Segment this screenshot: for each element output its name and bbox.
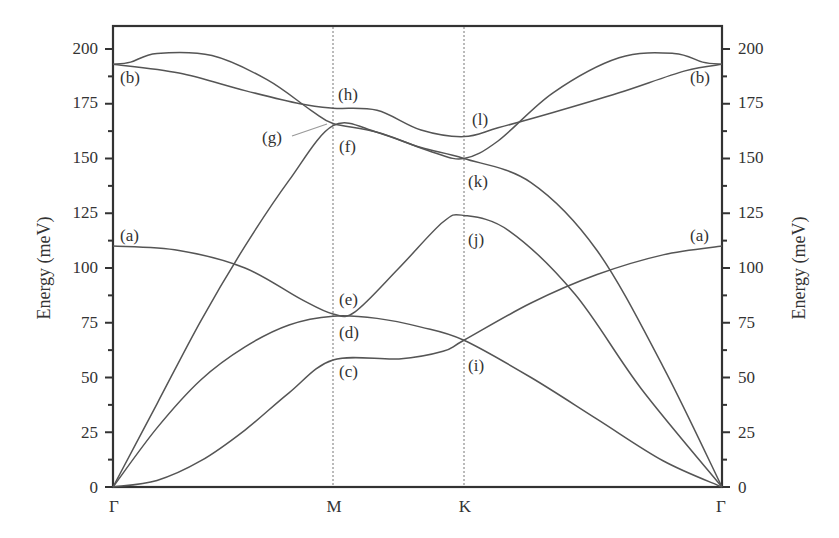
x-label-gamma-right: Γ	[716, 497, 726, 516]
annotation-g: (g)	[262, 128, 282, 147]
tick-label-75: 75	[81, 313, 98, 332]
annotation-l: (l)	[472, 110, 488, 129]
annotation-a-left: (a)	[120, 226, 139, 245]
branch-ta	[113, 316, 722, 487]
branch-zo	[113, 215, 722, 487]
branch-lo	[113, 52, 722, 159]
tick-label-50-right: 50	[738, 368, 755, 387]
right-y-tick-labels: 0 25 50 75 100 125 150 175 200	[738, 39, 764, 497]
tick-label-125-right: 125	[738, 203, 764, 222]
x-label-k: K	[459, 497, 472, 516]
tick-label-200: 200	[73, 39, 99, 58]
annotation-d: (d)	[339, 323, 359, 342]
annotation-f: (f)	[339, 137, 356, 156]
tick-label-100: 100	[73, 258, 99, 277]
branch-to	[113, 64, 722, 136]
plot-frame	[113, 26, 722, 487]
annotation-b-right: (b)	[690, 68, 710, 87]
annotation-k: (k)	[468, 172, 488, 191]
x-label-gamma-left: Γ	[109, 497, 119, 516]
annotation-e: (e)	[339, 290, 358, 309]
tick-label-0: 0	[90, 478, 99, 497]
tick-label-25: 25	[81, 423, 98, 442]
dispersion-curves	[113, 52, 722, 487]
annotation-a-right: (a)	[690, 226, 709, 245]
tick-label-150-right: 150	[738, 148, 764, 167]
phonon-dispersion-chart: 0 25 50 75 100 125 150 175 200 0 25 50 7…	[0, 0, 839, 538]
annotation-i: (i)	[468, 356, 484, 375]
tick-label-125: 125	[73, 203, 99, 222]
branch-la	[113, 123, 722, 487]
tick-label-175: 175	[73, 93, 99, 112]
tick-label-75-right: 75	[738, 313, 755, 332]
tick-label-100-right: 100	[738, 258, 764, 277]
annotation-b-left: (b)	[120, 68, 140, 87]
y-axis-title-right: Energy (meV)	[789, 216, 810, 319]
y-axis-title-left: Energy (meV)	[34, 216, 55, 319]
annotation-c: (c)	[339, 362, 358, 381]
tick-label-50: 50	[81, 368, 98, 387]
tick-label-200-right: 200	[738, 39, 764, 58]
left-y-tick-labels: 0 25 50 75 100 125 150 175 200	[73, 39, 99, 497]
tick-label-25-right: 25	[738, 423, 755, 442]
tick-label-175-right: 175	[738, 93, 764, 112]
annotation-h: (h)	[338, 85, 358, 104]
y-ticks	[105, 49, 730, 487]
annotation-j: (j)	[468, 230, 484, 249]
branch-za	[113, 246, 722, 487]
x-label-m: M	[326, 497, 341, 516]
tick-label-0-right: 0	[738, 478, 747, 497]
tick-label-150: 150	[73, 148, 99, 167]
